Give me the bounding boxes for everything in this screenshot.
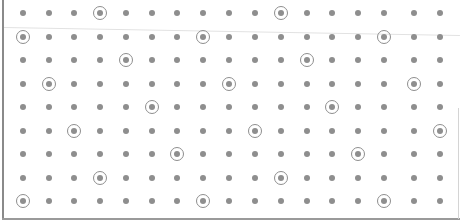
grid-dot bbox=[20, 151, 26, 157]
grid-dot bbox=[355, 198, 361, 204]
grid-dot bbox=[46, 104, 52, 110]
grid-dot bbox=[46, 57, 52, 63]
grid-dot bbox=[20, 10, 26, 16]
grid-dot bbox=[304, 151, 310, 157]
grid-dot bbox=[437, 34, 443, 40]
circled-dot bbox=[71, 128, 77, 134]
grid-dot bbox=[174, 198, 180, 204]
grid-dot bbox=[71, 175, 77, 181]
grid-dot bbox=[304, 198, 310, 204]
grid-dot bbox=[149, 198, 155, 204]
grid-dot bbox=[20, 81, 26, 87]
circled-dot bbox=[20, 34, 26, 40]
grid-dot bbox=[46, 128, 52, 134]
grid-dot bbox=[252, 104, 258, 110]
grid-dot bbox=[355, 81, 361, 87]
grid-dot bbox=[381, 175, 387, 181]
grid-dot bbox=[437, 151, 443, 157]
grid-dot bbox=[329, 81, 335, 87]
grid-dot bbox=[200, 104, 206, 110]
grid-dot bbox=[411, 10, 417, 16]
grid-dot bbox=[123, 34, 129, 40]
circled-dot bbox=[437, 128, 443, 134]
circled-dot bbox=[355, 151, 361, 157]
grid-dot bbox=[123, 198, 129, 204]
grid-dot bbox=[329, 175, 335, 181]
grid-dot bbox=[123, 81, 129, 87]
grid-dot bbox=[97, 128, 103, 134]
grid-dot bbox=[411, 175, 417, 181]
grid-dot bbox=[278, 34, 284, 40]
grid-dot bbox=[20, 175, 26, 181]
grid-dot bbox=[71, 57, 77, 63]
grid-dot bbox=[46, 198, 52, 204]
grid-dot bbox=[46, 175, 52, 181]
grid-dot bbox=[252, 34, 258, 40]
grid-dot bbox=[123, 104, 129, 110]
grid-dot bbox=[226, 128, 232, 134]
circled-dot bbox=[226, 81, 232, 87]
grid-dot bbox=[252, 175, 258, 181]
grid-dot bbox=[46, 10, 52, 16]
frame-left-border bbox=[2, 0, 4, 220]
grid-dot bbox=[304, 81, 310, 87]
grid-dot bbox=[381, 81, 387, 87]
circled-dot bbox=[97, 175, 103, 181]
grid-dot bbox=[437, 10, 443, 16]
grid-dot bbox=[226, 175, 232, 181]
grid-dot bbox=[304, 128, 310, 134]
grid-dot bbox=[381, 128, 387, 134]
grid-dot bbox=[71, 104, 77, 110]
grid-dot bbox=[278, 81, 284, 87]
grid-dot bbox=[226, 57, 232, 63]
grid-dot bbox=[304, 34, 310, 40]
circled-dot bbox=[97, 10, 103, 16]
circled-dot bbox=[200, 198, 206, 204]
circled-dot bbox=[278, 175, 284, 181]
grid-dot bbox=[174, 10, 180, 16]
grid-dot bbox=[20, 104, 26, 110]
grid-dot bbox=[174, 104, 180, 110]
grid-dot bbox=[252, 57, 258, 63]
grid-dot bbox=[437, 81, 443, 87]
grid-dot bbox=[149, 151, 155, 157]
grid-dot bbox=[304, 10, 310, 16]
dot-grid-board bbox=[0, 0, 461, 221]
grid-dot bbox=[71, 198, 77, 204]
grid-dot bbox=[71, 34, 77, 40]
grid-dot bbox=[71, 81, 77, 87]
circled-dot bbox=[304, 57, 310, 63]
grid-dot bbox=[252, 10, 258, 16]
grid-dot bbox=[437, 198, 443, 204]
grid-dot bbox=[381, 151, 387, 157]
grid-dot bbox=[304, 104, 310, 110]
grid-dot bbox=[149, 34, 155, 40]
frame-bottom-border bbox=[2, 218, 460, 220]
grid-dot bbox=[411, 151, 417, 157]
circled-dot bbox=[252, 128, 258, 134]
grid-dot bbox=[123, 10, 129, 16]
grid-dot bbox=[174, 81, 180, 87]
grid-dot bbox=[149, 128, 155, 134]
circled-dot bbox=[174, 151, 180, 157]
grid-dot bbox=[123, 175, 129, 181]
grid-dot bbox=[200, 81, 206, 87]
grid-dot bbox=[174, 128, 180, 134]
grid-dot bbox=[278, 151, 284, 157]
grid-dot bbox=[200, 10, 206, 16]
grid-dot bbox=[20, 128, 26, 134]
grid-dot bbox=[329, 10, 335, 16]
grid-dot bbox=[174, 57, 180, 63]
grid-dot bbox=[226, 151, 232, 157]
grid-dot bbox=[149, 175, 155, 181]
grid-dot bbox=[71, 151, 77, 157]
grid-dot bbox=[97, 151, 103, 157]
grid-dot bbox=[226, 10, 232, 16]
circled-dot bbox=[381, 198, 387, 204]
grid-dot bbox=[329, 57, 335, 63]
grid-dot bbox=[329, 198, 335, 204]
grid-dot bbox=[200, 151, 206, 157]
circled-dot bbox=[278, 10, 284, 16]
grid-dot bbox=[355, 57, 361, 63]
grid-dot bbox=[252, 81, 258, 87]
